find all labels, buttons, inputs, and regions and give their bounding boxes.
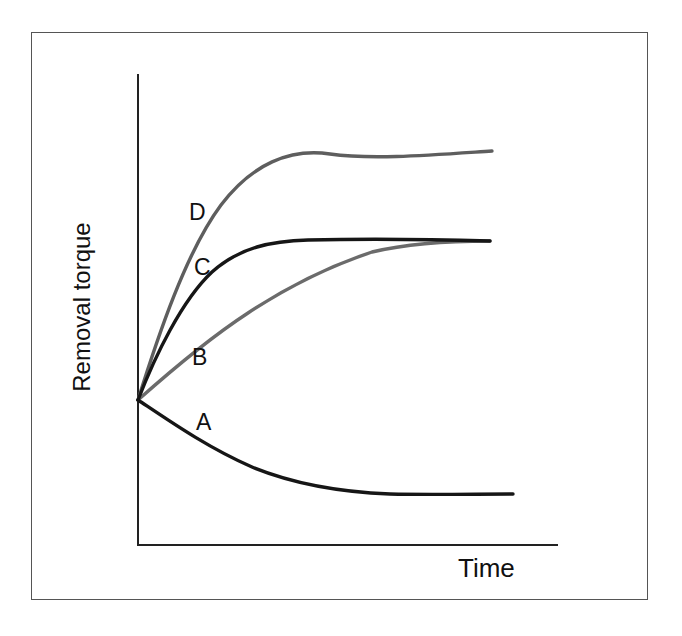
figure-root: D C B A Time Removal torque	[0, 0, 682, 636]
figure-border-frame	[31, 32, 648, 600]
series-label-c: C	[194, 256, 211, 279]
y-axis-label: Removal torque	[67, 192, 97, 422]
series-label-d: D	[189, 201, 206, 224]
y-axis-label-wrapper: Removal torque	[67, 192, 97, 422]
x-axis-label: Time	[458, 553, 515, 583]
series-label-a: A	[196, 411, 211, 434]
series-label-b: B	[192, 346, 207, 369]
